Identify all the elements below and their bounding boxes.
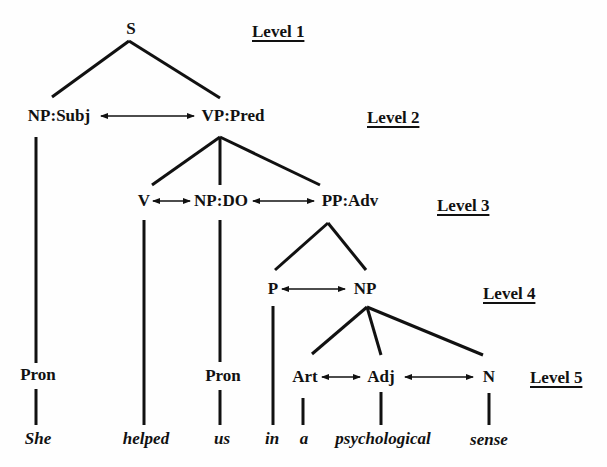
word-helped: helped (123, 429, 169, 449)
level-5-label: Level 5 (530, 368, 582, 388)
node-pron-subj: Pron (20, 365, 56, 385)
word-in: in (265, 429, 279, 449)
node-art: Art (292, 367, 317, 387)
node-adj: Adj (367, 367, 394, 387)
node-n: N (483, 367, 495, 387)
word-a: a (300, 429, 309, 449)
word-us: us (214, 429, 230, 449)
node-s: S (126, 19, 135, 39)
node-np: NP (354, 279, 377, 299)
word-sense: sense (470, 430, 508, 450)
syntax-tree-diagram: S NP:Subj VP:Pred V NP:DO PP:Adv P NP Pr… (0, 0, 607, 467)
node-np-subj: NP:Subj (28, 106, 90, 126)
word-psychological: psychological (335, 429, 430, 449)
level-3-label: Level 3 (437, 196, 489, 216)
node-p: P (268, 279, 278, 299)
level-1-label: Level 1 (252, 22, 304, 42)
word-she: She (25, 429, 51, 449)
level-2-label: Level 2 (367, 108, 419, 128)
level-4-label: Level 4 (483, 284, 535, 304)
node-pp-adv: PP:Adv (322, 191, 379, 211)
node-v: V (138, 191, 150, 211)
tree-lines (0, 0, 607, 467)
node-pron-do: Pron (205, 366, 241, 386)
node-np-do: NP:DO (194, 191, 248, 211)
node-vp-pred: VP:Pred (202, 106, 265, 126)
